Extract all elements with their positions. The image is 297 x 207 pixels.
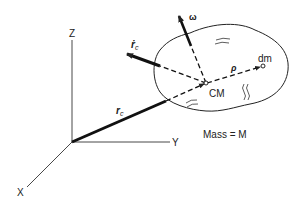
mass-label: Mass = M [203,129,247,140]
relative-position-label: ρ [230,63,237,73]
x-axis [27,142,72,187]
y-axis-label: Y [172,137,179,148]
position-vector-rc [72,84,204,142]
velocity-vector [127,54,206,83]
mass-element-label: dm [258,53,272,64]
center-of-mass-label: CM [209,88,225,99]
position-vector-label: rc [116,105,124,117]
rigid-body-diagram: Z Y X rc ṙc ω ρ CM dm Mass = M [0,0,297,207]
angular-velocity-label: ω [189,12,197,22]
center-of-mass-point [204,81,208,85]
x-axis-label: X [17,187,24,198]
diagram-svg: Z Y X rc ṙc ω ρ CM dm Mass = M [0,0,297,207]
z-axis-label: Z [69,28,75,39]
mass-element-point [261,64,265,68]
angular-velocity-vector [179,16,206,83]
coordinate-axes: Z Y X [17,28,179,198]
velocity-vector-label: ṙc [131,39,139,51]
